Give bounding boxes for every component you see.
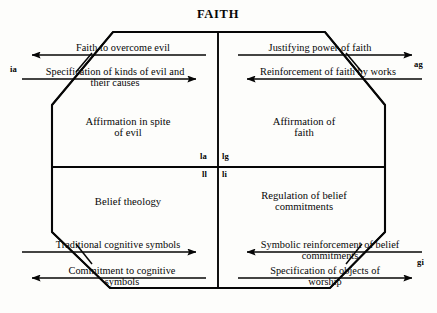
quadrant-upper-left-line2: of evil — [86, 127, 171, 138]
quadrant-upper-left-line1: Affirmation in spite — [86, 116, 171, 127]
quadrant-upper-right-line2: faith — [273, 127, 336, 138]
quadrant-lower-right-line2: commitments — [261, 201, 347, 212]
flow-label-specification-of-objects-of-worship: Specification of objects of worship — [270, 265, 380, 287]
flow-bottom-left-outward-line1: Commitment to cognitive — [69, 265, 176, 276]
flow-top-left-inward-line1: Specification of kinds of evil and — [46, 66, 185, 77]
quadrant-label-upper-right: Affirmation of faith — [273, 116, 336, 139]
corner-code-gi: gi — [417, 258, 424, 267]
flow-top-left-inward-line2: their causes — [46, 77, 185, 88]
corner-code-ia: ia — [10, 65, 17, 74]
flow-top-right-inward-line1: Reinforcement of faith by works — [260, 66, 396, 77]
quadrant-label-upper-left: Affirmation in spite of evil — [86, 116, 171, 139]
flow-label-traditional-cognitive-symbols: Traditional cognitive symbols — [56, 239, 181, 250]
quadrant-label-lower-left: Belief theology — [95, 196, 161, 207]
flow-label-symbolic-reinforcement-of-belief: Symbolic reinforcement of belief commitm… — [261, 239, 400, 261]
quadrant-label-lower-right: Regulation of belief commitments — [261, 190, 347, 213]
flow-label-commitment-to-cognitive-symbols: Commitment to cognitive symbols — [69, 265, 176, 287]
flow-top-right-outward-line1: Justifying power of faith — [269, 42, 372, 53]
center-code-la: la — [200, 152, 207, 161]
flow-label-reinforcement-of-faith-by-works: Reinforcement of faith by works — [260, 66, 396, 77]
flow-bottom-left-outward-line2: symbols — [69, 276, 176, 287]
quadrant-lower-right-line1: Regulation of belief — [261, 190, 347, 201]
page-title: FAITH — [197, 8, 239, 22]
flow-label-specification-of-kinds-of-evil: Specification of kinds of evil and their… — [46, 66, 185, 88]
flow-bottom-right-outward-line2: worship — [270, 276, 380, 287]
flow-bottom-right-outward-line1: Specification of objects of — [270, 265, 380, 276]
flow-bottom-left-inward-line1: Traditional cognitive symbols — [56, 239, 181, 250]
center-code-ll: ll — [202, 170, 207, 179]
flow-label-faith-to-overcome-evil: Faith to overcome evil — [76, 42, 170, 53]
flow-top-left-outward-line1: Faith to overcome evil — [76, 42, 170, 53]
flow-label-justifying-power-of-faith: Justifying power of faith — [269, 42, 372, 53]
center-code-li: li — [222, 170, 227, 179]
quadrant-upper-right-line1: Affirmation of — [273, 116, 336, 127]
flow-bottom-right-inward-line2: commitments — [261, 250, 400, 261]
quadrant-lower-left-line1: Belief theology — [95, 196, 161, 207]
center-code-lg: lg — [222, 152, 229, 161]
faith-agil-diagram: FAITH ia ag gi la lg ll li Affirmation i… — [0, 0, 437, 313]
flow-bottom-right-inward-line1: Symbolic reinforcement of belief — [261, 239, 400, 250]
corner-code-ag: ag — [414, 60, 423, 69]
